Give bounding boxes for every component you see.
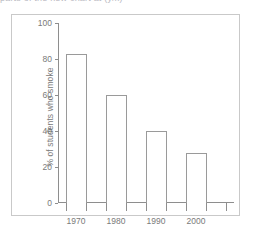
- plot-area: % of students who smoke 100 80 60 40 20 …: [58, 23, 234, 211]
- x-tick-mark-2: [106, 203, 107, 211]
- x-tick-mark-1: [86, 203, 87, 211]
- x-tick-mark-0: [66, 203, 67, 211]
- y-axis-title: % of students who smoke: [46, 67, 55, 166]
- bar-1970[interactable]: [66, 54, 87, 203]
- y-axis-line: [58, 23, 59, 203]
- y-tick-mark-20: [55, 167, 58, 168]
- x-tick-mark-5: [166, 203, 167, 211]
- y-tick-label-40: 40: [18, 127, 52, 136]
- bar-2000[interactable]: [186, 153, 207, 203]
- x-tick-label-2000: 2000: [187, 217, 206, 226]
- x-tick-mark-3: [126, 203, 127, 211]
- bar-1980[interactable]: [106, 95, 127, 203]
- x-tick-mark-4: [146, 203, 147, 211]
- y-tick-label-0: 0: [18, 199, 52, 208]
- y-tick-mark-100: [55, 23, 58, 24]
- x-tick-label-1970: 1970: [67, 217, 86, 226]
- y-tick-label-20: 20: [18, 163, 52, 172]
- x-tick-mark-6: [186, 203, 187, 211]
- x-tick-label-1990: 1990: [147, 217, 166, 226]
- chart-figure-frame: % of students who smoke 100 80 60 40 20 …: [11, 14, 240, 216]
- y-tick-mark-60: [55, 95, 58, 96]
- y-tick-label-100: 100: [18, 19, 52, 28]
- y-tick-mark-0: [55, 203, 58, 204]
- y-tick-label-80: 80: [18, 55, 52, 64]
- bar-1990[interactable]: [146, 131, 167, 203]
- x-tick-mark-8: [226, 203, 227, 211]
- x-tick-label-1980: 1980: [107, 217, 126, 226]
- clipped-header-text: parts of the new chart at (y/x): [0, 0, 254, 3]
- y-tick-mark-80: [55, 59, 58, 60]
- x-tick-mark-7: [206, 203, 207, 211]
- y-tick-label-60: 60: [18, 91, 52, 100]
- y-tick-mark-40: [55, 131, 58, 132]
